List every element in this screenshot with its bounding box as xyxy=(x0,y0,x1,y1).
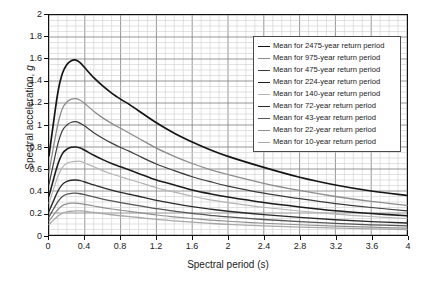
spectral-acceleration-chart: Spectral acceleration, g 00.20.40.60.811… xyxy=(0,0,425,282)
x-tick-label: 2 xyxy=(211,242,245,251)
legend-line-swatch xyxy=(257,124,270,136)
x-tick-mark xyxy=(84,236,85,240)
x-tick-label: 1.6 xyxy=(175,242,209,251)
legend-item[interactable]: Mean for 224-year return period xyxy=(257,76,396,88)
y-tick-label: 0.8 xyxy=(2,143,42,152)
legend-item-label: Mean for 10-year return period xyxy=(273,138,376,146)
y-tick-mark xyxy=(44,36,48,37)
x-tick-mark xyxy=(264,236,265,240)
legend-item[interactable]: Mean for 22-year return period xyxy=(257,124,396,136)
legend-item[interactable]: Mean for 475-year return period xyxy=(257,64,396,76)
legend-item-label: Mean for 975-year return period xyxy=(273,54,380,62)
legend-item[interactable]: Mean for 975-year return period xyxy=(257,52,396,64)
legend-item-label: Mean for 140-year return period xyxy=(273,90,380,98)
y-tick-mark xyxy=(44,192,48,193)
legend-item[interactable]: Mean for 10-year return period xyxy=(257,136,396,148)
legend-line-swatch xyxy=(257,40,270,52)
y-tick-label: 0.2 xyxy=(2,209,42,218)
legend-line-swatch xyxy=(257,100,270,112)
y-tick-label: 1.8 xyxy=(2,32,42,41)
legend-item[interactable]: Mean for 140-year return period xyxy=(257,88,396,100)
x-tick-label: 0.8 xyxy=(103,242,137,251)
x-tick-label: 4 xyxy=(391,242,425,251)
legend-line-swatch xyxy=(257,112,270,124)
x-tick-mark xyxy=(48,236,49,240)
y-tick-mark xyxy=(44,125,48,126)
y-tick-mark xyxy=(44,103,48,104)
y-tick-mark xyxy=(44,58,48,59)
chart-legend: Mean for 2475-year return period Mean fo… xyxy=(253,36,401,152)
x-tick-label: 3.6 xyxy=(355,242,389,251)
y-axis-title-italic: g xyxy=(24,65,35,71)
x-tick-mark xyxy=(120,236,121,240)
x-tick-label: 0 xyxy=(31,242,65,251)
legend-item[interactable]: Mean for 43-year return period xyxy=(257,112,396,124)
legend-line-swatch xyxy=(257,52,270,64)
x-tick-mark xyxy=(192,236,193,240)
x-tick-label: 0.4 xyxy=(67,242,101,251)
y-tick-mark xyxy=(44,14,48,15)
x-tick-label: 2.4 xyxy=(247,242,281,251)
x-tick-label: 1.2 xyxy=(139,242,173,251)
x-axis-title: Spectral period (s) xyxy=(48,259,408,270)
y-tick-label: 1.4 xyxy=(2,76,42,85)
legend-item[interactable]: Mean for 2475-year return period xyxy=(257,40,396,52)
x-tick-label: 2.8 xyxy=(283,242,317,251)
y-tick-label: 0 xyxy=(2,232,42,241)
y-tick-mark xyxy=(44,147,48,148)
x-tick-mark xyxy=(408,236,409,240)
legend-item-label: Mean for 22-year return period xyxy=(273,126,376,134)
x-tick-mark xyxy=(372,236,373,240)
legend-item[interactable]: Mean for 72-year return period xyxy=(257,100,396,112)
legend-item-label: Mean for 475-year return period xyxy=(273,66,380,74)
x-tick-mark xyxy=(336,236,337,240)
legend-item-label: Mean for 224-year return period xyxy=(273,78,380,86)
legend-item-label: Mean for 72-year return period xyxy=(273,102,376,110)
legend-line-swatch xyxy=(257,88,270,100)
y-tick-mark xyxy=(44,81,48,82)
x-tick-mark xyxy=(228,236,229,240)
x-tick-mark xyxy=(156,236,157,240)
y-tick-mark xyxy=(44,169,48,170)
y-tick-mark xyxy=(44,214,48,215)
legend-item-label: Mean for 2475-year return period xyxy=(273,42,384,50)
legend-line-swatch xyxy=(257,64,270,76)
legend-line-swatch xyxy=(257,76,270,88)
x-tick-label: 3.2 xyxy=(319,242,353,251)
y-tick-label: 0.6 xyxy=(2,165,42,174)
legend-item-label: Mean for 43-year return period xyxy=(273,114,376,122)
y-tick-label: 2 xyxy=(2,10,42,19)
y-tick-label: 0.4 xyxy=(2,187,42,196)
x-tick-mark xyxy=(300,236,301,240)
y-tick-label: 1.2 xyxy=(2,98,42,107)
y-tick-label: 1 xyxy=(2,121,42,130)
y-tick-label: 1.6 xyxy=(2,54,42,63)
legend-line-swatch xyxy=(257,136,270,148)
